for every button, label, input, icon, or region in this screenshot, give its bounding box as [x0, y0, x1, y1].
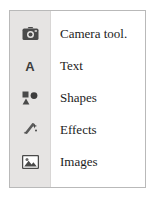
menu-item-label: Text: [50, 59, 83, 73]
menu-item-images[interactable]: Images: [10, 146, 145, 178]
shapes-icon: [10, 82, 50, 114]
menu-item-label: Camera tool.: [50, 27, 127, 41]
tool-menu-panel: Camera tool. A Text Shapes: [9, 10, 146, 188]
menu-item-label: Effects: [50, 123, 97, 137]
text-a-icon: A: [10, 50, 50, 82]
tool-menu-list: Camera tool. A Text Shapes: [10, 11, 145, 187]
images-picture-icon: [10, 146, 50, 178]
menu-item-effects[interactable]: Effects: [10, 114, 145, 146]
camera-icon: [10, 18, 50, 50]
menu-item-camera-tool[interactable]: Camera tool.: [10, 18, 145, 50]
menu-item-text[interactable]: A Text: [10, 50, 145, 82]
menu-item-label: Images: [50, 155, 98, 169]
effects-wand-icon: [10, 114, 50, 146]
screenshot-root: Camera tool. A Text Shapes: [0, 0, 156, 204]
menu-item-label: Shapes: [50, 91, 97, 105]
menu-item-shapes[interactable]: Shapes: [10, 82, 145, 114]
